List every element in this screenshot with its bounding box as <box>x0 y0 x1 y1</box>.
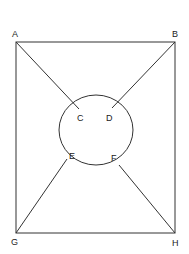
label-a: A <box>12 29 18 39</box>
label-b: B <box>172 29 178 39</box>
line-a-c <box>16 42 79 109</box>
diagram-svg: A B C D E F G H <box>0 0 189 254</box>
diagram: A B C D E F G H <box>0 0 189 254</box>
line-b-d <box>112 42 175 108</box>
label-d: D <box>106 113 113 123</box>
line-g-e <box>16 159 67 233</box>
label-f: F <box>111 153 117 163</box>
label-h: H <box>172 238 179 248</box>
label-e: E <box>69 151 75 161</box>
line-h-f <box>119 165 175 233</box>
label-c: C <box>77 113 84 123</box>
label-g: G <box>11 237 18 247</box>
